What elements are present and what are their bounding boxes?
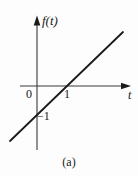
y-axis-arrowhead-icon	[34, 16, 41, 26]
y-axis-label: f(t)	[42, 14, 58, 27]
y-axis	[34, 16, 41, 151]
x-axis-label: t	[128, 89, 131, 101]
y-tick-label-neg-1: −1	[37, 110, 50, 122]
figure-caption: (a)	[0, 155, 138, 170]
origin-tick-label: 0	[26, 88, 32, 100]
x-tick-label-1: 1	[64, 88, 70, 100]
figure-container: f(t) t 0 1 −1 (a)	[0, 0, 138, 176]
